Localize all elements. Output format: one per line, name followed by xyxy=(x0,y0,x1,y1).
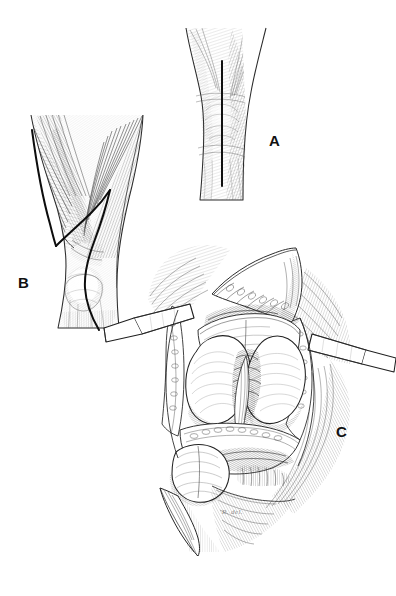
artist-signature: R. del. xyxy=(222,508,243,516)
illustration-canvas xyxy=(0,0,396,596)
figure-root: A B C R. del. xyxy=(0,0,396,596)
panel-b-label: B xyxy=(18,275,29,290)
panel-c-label: C xyxy=(336,424,347,439)
panel-a-label: A xyxy=(269,133,280,148)
